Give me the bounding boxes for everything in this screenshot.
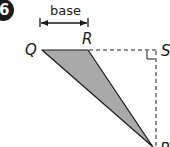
vertex-label-s: S (161, 42, 170, 60)
vertex-label-p: P (160, 140, 170, 147)
vertex-label-q: Q (25, 41, 37, 59)
vertex-label-r: R (82, 30, 92, 48)
base-label: base (50, 3, 81, 18)
question-number-badge: 6 (0, 0, 14, 21)
shaded-triangle-qrp (42, 50, 153, 147)
triangle-diagram: 6 base Q R S P (0, 0, 170, 147)
right-angle-marker (147, 51, 155, 59)
question-number: 6 (0, 1, 9, 19)
base-dimension-arrow (40, 18, 88, 27)
